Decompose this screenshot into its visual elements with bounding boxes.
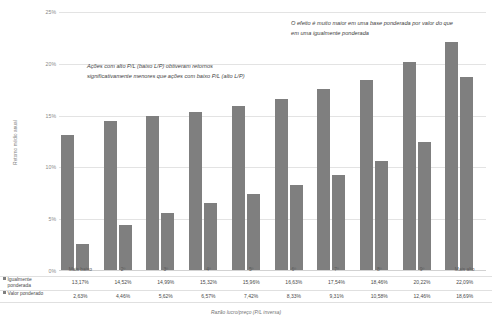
- plot-area: [59, 12, 486, 271]
- table-cell-value-weighted: 10,58%: [358, 293, 401, 299]
- bar-group: [401, 12, 444, 271]
- table-row-equal-weighted: Igualmente ponderada 13,17%14,52%14,99%1…: [0, 277, 492, 291]
- y-axis-tick-label: 25%: [24, 9, 56, 15]
- bar-value-weighted: [290, 185, 303, 271]
- table-cell-equal-weighted: 14,52%: [102, 279, 145, 285]
- bar-group: [315, 12, 358, 271]
- table-cell-category: 9º: [401, 267, 444, 272]
- bar-equal-weighted: [275, 99, 288, 271]
- bar-value-weighted: [332, 175, 345, 271]
- annotation-right: O efeito é muito maior em uma base ponde…: [291, 19, 461, 39]
- bar-group: [358, 12, 401, 271]
- y-axis-tick-label: 5%: [24, 216, 56, 222]
- bar-equal-weighted: [317, 89, 330, 271]
- legend-label-equal-weighted-line1: Igualmente: [8, 277, 32, 282]
- table-row-value-weighted: Valor ponderado 2,63%4,46%5,62%6,57%7,42…: [0, 291, 492, 302]
- bar-equal-weighted: [360, 80, 373, 271]
- table-cell-category: 3º: [144, 267, 187, 272]
- table-cell-equal-weighted: 15,32%: [187, 279, 230, 285]
- table-cell-value-weighted: 5,62%: [144, 293, 187, 299]
- bar-group: [443, 12, 486, 271]
- bar-equal-weighted: [61, 135, 74, 271]
- bar-value-weighted: [375, 161, 388, 271]
- y-axis-tick-label: 10%: [24, 164, 56, 170]
- table-cell-value-weighted: 8,33%: [273, 293, 316, 299]
- bar-equal-weighted: [403, 62, 416, 271]
- x-axis-title: Razão lucro/preço (P/L inversa): [0, 310, 492, 315]
- y-axis-tick-label: 20%: [24, 61, 56, 67]
- table-row-categories: Mais baixo2º3º4º5º6º7º8º9ºMais alto: [0, 265, 492, 276]
- legend-swatch-icon: [3, 291, 6, 294]
- table-cell-value-weighted: 7,42%: [230, 293, 273, 299]
- bar-group: [273, 12, 316, 271]
- table-cell-category: Mais alto: [443, 267, 486, 272]
- chart-container: Retorno médio anual 25%20%15%10%5%0% Açõ…: [0, 0, 492, 326]
- bar-equal-weighted: [104, 121, 117, 271]
- bar-value-weighted: [161, 213, 174, 271]
- table-cell-category: 2º: [102, 267, 145, 272]
- bar-equal-weighted: [232, 106, 245, 271]
- bar-group: [230, 12, 273, 271]
- table-cell-value-weighted: 6,57%: [187, 293, 230, 299]
- table-cell-equal-weighted: 15,96%: [230, 279, 273, 285]
- data-table: Mais baixo2º3º4º5º6º7º8º9ºMais alto Igua…: [0, 265, 492, 308]
- y-axis-tick-labels: 25%20%15%10%5%0%: [24, 0, 56, 272]
- annotation-left: Ações com alto P/L (baixo L/P) obtiveram…: [87, 62, 259, 82]
- table-cell-value-weighted: 2,63%: [59, 293, 102, 299]
- table-cell-category: 8º: [358, 267, 401, 272]
- table-cell-value-weighted: 4,46%: [102, 293, 145, 299]
- bar-value-weighted: [247, 194, 260, 271]
- table-cell-equal-weighted: 18,46%: [358, 279, 401, 285]
- bar-group: [102, 12, 145, 271]
- bar-equal-weighted: [146, 116, 159, 271]
- table-cell-equal-weighted: 14,99%: [144, 279, 187, 285]
- table-cell-value-weighted: 12,46%: [401, 293, 444, 299]
- table-cell-value-weighted: 18,69%: [443, 293, 486, 299]
- table-cell-category: 5º: [230, 267, 273, 272]
- bar-value-weighted: [204, 203, 217, 271]
- bar-equal-weighted: [445, 42, 458, 271]
- table-cell-equal-weighted: 20,22%: [401, 279, 444, 285]
- table-cell-category: 7º: [315, 267, 358, 272]
- y-axis-tick-label: 15%: [24, 113, 56, 119]
- bar-equal-weighted: [189, 112, 202, 271]
- bar-group: [144, 12, 187, 271]
- legend-swatch-icon: [3, 277, 6, 280]
- table-cell-value-weighted: 9,31%: [315, 293, 358, 299]
- bar-value-weighted: [418, 142, 431, 271]
- table-cell-category: 4º: [187, 267, 230, 272]
- table-cell-equal-weighted: 22,09%: [443, 279, 486, 285]
- legend-item-equal-weighted: Igualmente ponderada: [3, 277, 59, 290]
- y-axis-title: Retorno médio anual: [13, 88, 18, 198]
- legend-item-value-weighted: Valor ponderado: [3, 291, 59, 297]
- bar-group: [59, 12, 102, 271]
- legend-label-value-weighted: Valor ponderado: [8, 291, 44, 296]
- table-cell-equal-weighted: 13,17%: [59, 279, 102, 285]
- table-cell-category: Mais baixo: [59, 267, 102, 272]
- table-cell-category: 6º: [273, 267, 316, 272]
- bar-value-weighted: [460, 77, 473, 271]
- table-cell-equal-weighted: 17,54%: [315, 279, 358, 285]
- bar-group: [187, 12, 230, 271]
- table-divider: [0, 302, 492, 303]
- table-cell-equal-weighted: 16,63%: [273, 279, 316, 285]
- legend-label-equal-weighted-line2: ponderada: [3, 283, 31, 288]
